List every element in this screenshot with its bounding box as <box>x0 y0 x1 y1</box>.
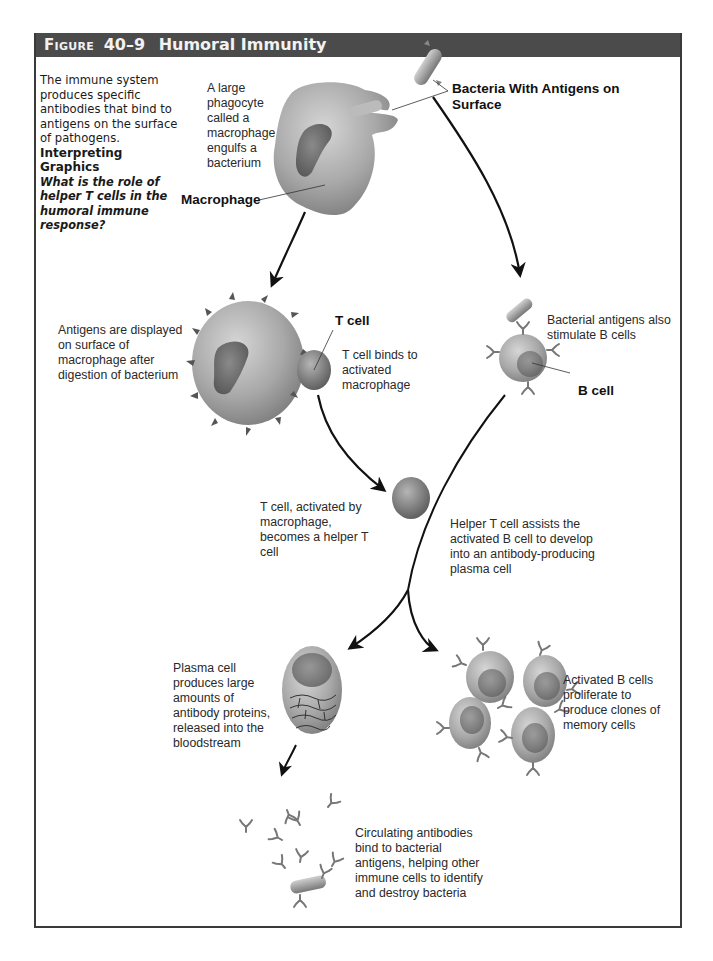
antigen-presenting-macrophage-icon <box>186 292 309 436</box>
caption-display: Antigens are displayed on surface of mac… <box>58 323 198 383</box>
label-bacteria: Bacteria With Antigens on Surface <box>452 81 622 113</box>
antibodies-icon <box>240 794 343 872</box>
interpreting-graphics-heading: Interpreting Graphics <box>40 146 180 175</box>
intro-text: The immune system produces specific anti… <box>40 73 180 146</box>
label-b-cell: B cell <box>578 383 614 399</box>
arrow-bacteria-to-bcell <box>433 97 520 275</box>
helper-t-cell-icon <box>392 477 430 519</box>
caption-memory: Activated B cells proliferate to produce… <box>563 673 675 733</box>
label-t-cell: T cell <box>335 313 370 329</box>
b-cell-icon <box>487 297 559 394</box>
caption-plasma: Plasma cell produces large amounts of an… <box>173 661 283 751</box>
caption-helper: T cell, activated by macrophage, becomes… <box>260 500 385 560</box>
caption-engulf: A large phagocyte called a macrophage en… <box>207 81 287 171</box>
bacterium-icon <box>411 40 444 88</box>
plasma-cell-icon <box>282 646 342 734</box>
antibody-bound-bacterium-icon <box>289 865 332 907</box>
caption-b-stim: Bacterial antigens also stimulate B cell… <box>547 313 672 343</box>
memory-cells-icon <box>437 638 580 775</box>
macrophage-icon <box>274 82 398 215</box>
intro-panel: The immune system produces specific anti… <box>40 73 180 233</box>
caption-t-binds: T cell binds to activated macrophage <box>342 348 437 393</box>
caption-helper-assist: Helper T cell assists the activated B ce… <box>450 517 600 577</box>
interpreting-graphics-question: What is the role of helper T cells in th… <box>40 175 180 233</box>
caption-circulating: Circulating antibodies bind to bacterial… <box>355 826 485 901</box>
arrow-macrophage-to-display <box>272 212 305 285</box>
label-macrophage: Macrophage <box>181 192 261 208</box>
arrow-plasma-to-antibodies <box>282 745 296 774</box>
arrow-tcell-to-helper <box>318 395 384 490</box>
arrow-to-memory-cells <box>408 590 436 650</box>
arrow-to-plasma-cell <box>350 590 408 648</box>
